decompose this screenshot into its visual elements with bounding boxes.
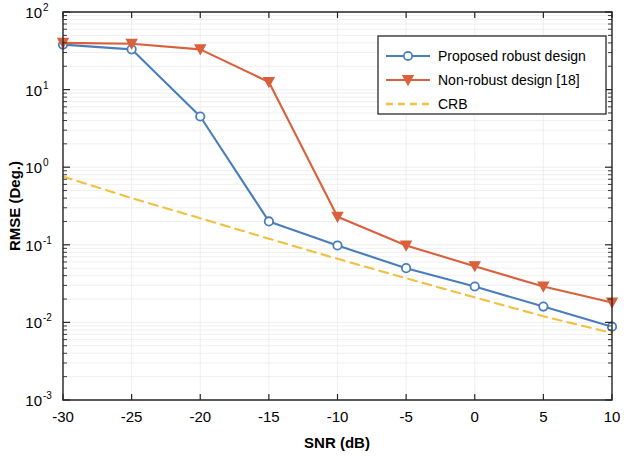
y-tick-label-base: 10 [25,4,42,21]
chart-figure: -30-25-20-15-10-50510 10210110010-110-21… [0,0,628,462]
data-point-marker-circle-0-2 [196,112,204,120]
data-point-marker-circle-0-7 [539,302,547,310]
y-tick-label-exponent: -1 [43,235,52,246]
x-tick-label-5: -5 [399,408,412,425]
y-tick-label-exponent: -3 [43,390,52,401]
legend-label-0: Proposed robust design [438,48,586,64]
y-tick-label-exponent: 0 [43,157,49,168]
data-point-marker-circle-0-6 [471,282,479,290]
x-tick-label-4: -10 [327,408,349,425]
legend-label-1: Non-robust design [18] [438,72,580,88]
chart-legend: Proposed robust designNon-robust design … [378,36,606,114]
y-axis-title: RMSE (Deg.) [6,161,23,251]
x-tick-label-1: -25 [121,408,143,425]
x-tick-label-0: -30 [52,408,74,425]
data-point-marker-circle-0-5 [402,264,410,272]
x-tick-label-7: 5 [539,408,547,425]
x-tick-label-3: -15 [258,408,280,425]
y-tick-label-base: 10 [25,159,42,176]
data-point-marker-circle-0-3 [265,217,273,225]
y-tick-label-base: 10 [25,314,42,331]
x-tick-label-2: -20 [189,408,211,425]
y-tick-label-exponent: -2 [43,312,52,323]
rmse-vs-snr-chart: -30-25-20-15-10-50510 10210110010-110-21… [0,0,628,462]
x-tick-label-8: 10 [604,408,621,425]
y-tick-label-base: 10 [25,237,42,254]
y-tick-label-base: 10 [25,392,42,409]
legend-label-2: CRB [438,96,468,112]
x-tick-label-6: 0 [471,408,479,425]
y-tick-label-exponent: 2 [43,2,49,13]
x-axis-title: SNR (dB) [304,434,370,451]
data-point-marker-circle-legend-0 [404,52,412,60]
y-tick-label-base: 10 [25,82,42,99]
data-point-marker-circle-0-4 [333,241,341,249]
y-tick-label-exponent: 1 [43,80,49,91]
